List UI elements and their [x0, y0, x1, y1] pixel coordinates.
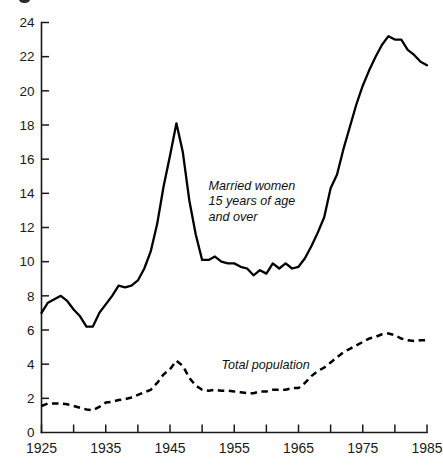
y-tick-marks [42, 23, 50, 399]
figure-root: 024681012141618202224 192519351945195519… [0, 0, 443, 473]
y-tick-label: 2 [27, 391, 35, 406]
y-axis-group: 024681012141618202224 [19, 15, 49, 440]
x-tick-label: 1945 [154, 440, 185, 456]
y-tick-label: 20 [19, 84, 34, 99]
y-tick-label: 16 [19, 152, 34, 167]
annotation-line: 15 years of age [209, 194, 296, 208]
married-women-label: Married women15 years of ageand over [209, 179, 296, 224]
x-tick-label: 1935 [90, 440, 121, 456]
y-tick-label: 6 [27, 323, 35, 338]
y-tick-label: 0 [27, 425, 35, 440]
x-axis-group: 1925193519451955196519751985 [26, 425, 443, 456]
line-chart: 024681012141618202224 192519351945195519… [0, 0, 443, 473]
y-tick-labels: 024681012141618202224 [19, 15, 35, 440]
x-tick-label: 1975 [347, 440, 378, 456]
x-tick-labels: 1925193519451955196519751985 [26, 440, 443, 456]
annotation-line: Total population [221, 358, 309, 372]
x-tick-label: 1955 [219, 440, 250, 456]
y-tick-label: 10 [19, 254, 34, 269]
y-tick-label: 18 [19, 118, 34, 133]
y-tick-label: 8 [27, 289, 35, 304]
chart-annotations: Married women15 years of ageand overTota… [209, 179, 310, 372]
annotation-line: Married women [209, 179, 296, 193]
y-tick-label: 12 [19, 220, 34, 235]
x-tick-marks [42, 425, 428, 433]
x-tick-label: 1925 [26, 440, 57, 456]
annotation-line: and over [209, 210, 259, 224]
y-tick-label: 24 [19, 15, 35, 30]
y-tick-label: 22 [19, 49, 34, 64]
x-tick-label: 1985 [411, 440, 442, 456]
y-tick-label: 4 [27, 357, 35, 372]
x-tick-label: 1965 [283, 440, 314, 456]
y-tick-label: 14 [19, 186, 35, 201]
total-population-label: Total population [221, 358, 309, 372]
